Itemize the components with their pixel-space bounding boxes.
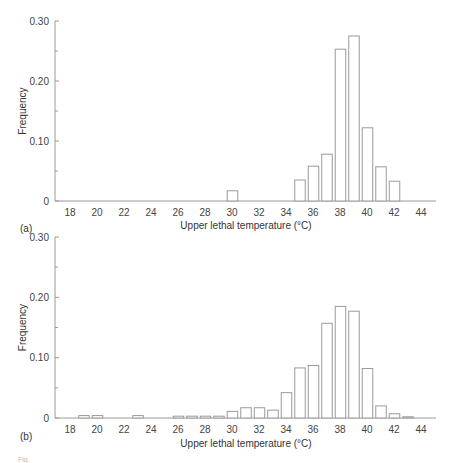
histogram-bar bbox=[92, 416, 103, 418]
x-tick-label: 34 bbox=[280, 207, 292, 218]
y-tick-label: 0 bbox=[43, 196, 49, 207]
y-tick-label: 0.30 bbox=[30, 16, 50, 27]
histogram-bar bbox=[254, 408, 265, 418]
x-axis-title: Upper lethal temperature (°C) bbox=[180, 220, 311, 231]
x-tick-label: 38 bbox=[334, 207, 346, 218]
x-tick-label: 34 bbox=[280, 424, 292, 435]
x-tick-label: 44 bbox=[415, 424, 427, 435]
x-tick-label: 38 bbox=[334, 424, 346, 435]
x-tick-label: 30 bbox=[226, 207, 238, 218]
histogram-bar bbox=[389, 181, 400, 201]
x-tick-label: 36 bbox=[307, 207, 319, 218]
x-tick-label: 44 bbox=[415, 207, 427, 218]
x-tick-label: 30 bbox=[226, 424, 238, 435]
x-tick-label: 40 bbox=[361, 424, 373, 435]
x-tick-label: 40 bbox=[361, 207, 373, 218]
histogram-bar bbox=[349, 36, 360, 201]
histogram-bar bbox=[322, 154, 333, 201]
x-tick-label: 26 bbox=[172, 207, 184, 218]
histogram-bar bbox=[403, 417, 414, 418]
x-tick-label: 28 bbox=[199, 207, 211, 218]
histogram-bar bbox=[308, 166, 319, 201]
histogram-bar bbox=[295, 180, 306, 201]
histogram-bar bbox=[268, 410, 279, 418]
histogram-bar bbox=[362, 369, 373, 418]
y-axis-title: Frequency bbox=[17, 87, 28, 134]
histogram-bar bbox=[79, 416, 90, 418]
histogram-bar bbox=[376, 406, 387, 418]
histogram-bar bbox=[295, 368, 306, 418]
y-tick-label: 0 bbox=[43, 413, 49, 424]
y-tick-label: 0.10 bbox=[30, 352, 50, 363]
x-tick-label: 36 bbox=[307, 424, 319, 435]
x-tick-label: 42 bbox=[388, 207, 400, 218]
x-tick-label: 20 bbox=[91, 207, 103, 218]
x-axis-title: Upper lethal temperature (°C) bbox=[180, 438, 311, 449]
histogram-bar bbox=[187, 416, 198, 418]
histogram-bar bbox=[214, 416, 225, 418]
histogram-bar bbox=[322, 323, 333, 418]
y-tick-label: 0.30 bbox=[30, 232, 50, 243]
x-tick-label: 22 bbox=[118, 207, 130, 218]
histogram-bar bbox=[376, 167, 387, 201]
figure-caption: Fig. bbox=[18, 456, 30, 463]
histogram-bar bbox=[349, 311, 360, 418]
x-tick-label: 32 bbox=[253, 424, 265, 435]
histogram-bar bbox=[227, 411, 238, 418]
histogram-panel-a: 00.100.200.30182022242628303234363840424… bbox=[17, 16, 436, 235]
histogram-panel-b: 00.100.200.30182022242628303234363840424… bbox=[17, 232, 436, 450]
histogram-figure: 00.100.200.30182022242628303234363840424… bbox=[0, 0, 452, 463]
x-tick-label: 18 bbox=[64, 207, 76, 218]
histogram-bar bbox=[241, 408, 252, 418]
histogram-bar bbox=[335, 306, 346, 418]
x-tick-label: 28 bbox=[199, 424, 211, 435]
x-tick-label: 26 bbox=[172, 424, 184, 435]
y-axis-title: Frequency bbox=[17, 304, 28, 351]
x-tick-label: 32 bbox=[253, 207, 265, 218]
x-tick-label: 42 bbox=[388, 424, 400, 435]
histogram-bar bbox=[200, 416, 211, 418]
histogram-bar bbox=[133, 416, 144, 418]
histogram-bar bbox=[308, 366, 319, 418]
y-tick-label: 0.20 bbox=[30, 292, 50, 303]
y-tick-label: 0.10 bbox=[30, 136, 50, 147]
histogram-bar bbox=[389, 414, 400, 418]
histogram-bar bbox=[362, 128, 373, 201]
histogram-bar bbox=[281, 393, 292, 418]
x-tick-label: 24 bbox=[145, 207, 157, 218]
y-tick-label: 0.20 bbox=[30, 76, 50, 87]
x-tick-label: 20 bbox=[91, 424, 103, 435]
histogram-bar bbox=[227, 191, 238, 201]
histogram-bar bbox=[173, 416, 184, 418]
x-tick-label: 22 bbox=[118, 424, 130, 435]
histogram-bar bbox=[335, 49, 346, 201]
x-tick-label: 24 bbox=[145, 424, 157, 435]
panel-label: (b) bbox=[20, 431, 32, 442]
x-tick-label: 18 bbox=[64, 424, 76, 435]
